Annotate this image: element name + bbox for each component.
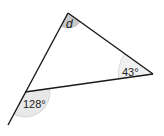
- angle-d-label: d: [66, 17, 73, 31]
- angle-43-label: 43°: [122, 66, 139, 78]
- side-top-right: [68, 13, 153, 74]
- angle-128-label: 128°: [23, 98, 46, 110]
- triangle-diagram: d 43° 128°: [0, 0, 164, 136]
